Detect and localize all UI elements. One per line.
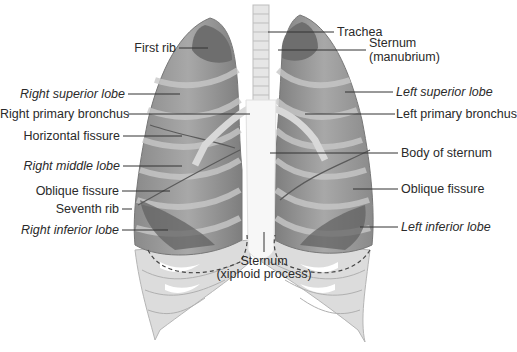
- label-horizontal-fissure: Horizontal fissure: [0, 129, 120, 143]
- label-right-inferior-lobe: Right inferior lobe: [0, 223, 119, 237]
- label-sternum-xiphoid: Sternum: [214, 254, 314, 268]
- left-lung: [275, 15, 373, 253]
- label-oblique-fissure-right: Oblique fissure: [0, 184, 119, 198]
- label-left-inferior-lobe: Left inferior lobe: [401, 220, 491, 234]
- label-body-of-sternum: Body of sternum: [401, 146, 492, 160]
- label-sternum-xiphoid-sub: (xiphoid process): [214, 267, 314, 281]
- label-seventh-rib: Seventh rib: [0, 202, 119, 216]
- label-sternum-manubrium-sub: (manubrium): [369, 50, 440, 64]
- label-left-superior-lobe: Left superior lobe: [396, 85, 493, 99]
- label-right-primary-bronchus: Right primary bronchus: [0, 107, 125, 121]
- label-left-primary-bronchus: Left primary bronchus: [396, 107, 517, 121]
- label-oblique-fissure-left: Oblique fissure: [401, 182, 484, 196]
- label-right-superior-lobe: Right superior lobe: [0, 87, 125, 101]
- label-right-middle-lobe: Right middle lobe: [0, 159, 120, 173]
- sternum: [246, 100, 276, 259]
- label-first-rib: First rib: [100, 41, 176, 55]
- label-sternum-manubrium: Sternum: [369, 36, 416, 50]
